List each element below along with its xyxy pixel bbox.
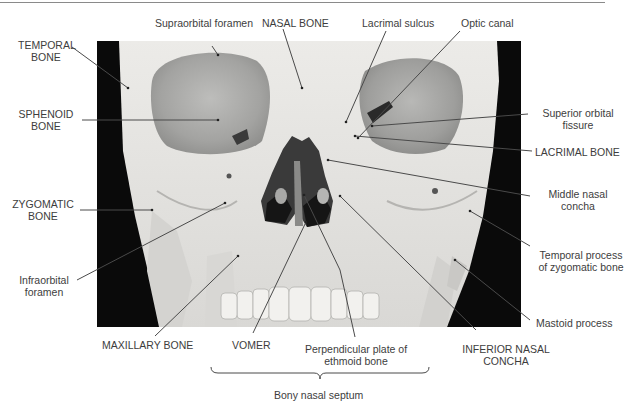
label-zygomatic-bone: ZYGOMATIC BONE [10,198,76,222]
label-sphenoid-bone-line2: BONE [18,120,74,132]
label-infraorbital-foramen: Infraorbital foramen [14,274,74,298]
label-zygomatic-bone-line2: BONE [10,210,76,222]
label-superior-orbital-fissure-line2: fissure [530,119,626,131]
label-temporal-process-line1: Temporal process [530,249,632,261]
label-temporal-bone-line2: BONE [18,51,74,63]
label-sphenoid-bone: SPHENOID BONE [18,108,74,132]
label-optic-canal: Optic canal [461,17,514,29]
label-bony-nasal-septum: Bony nasal septum [274,389,363,401]
label-supraorbital-foramen: Supraorbital foramen [155,17,253,29]
label-temporal-process-line2: of zygomatic bone [530,261,632,273]
label-zygomatic-bone-line1: ZYGOMATIC [10,198,76,210]
label-infraorbital-foramen-line1: Infraorbital [14,274,74,286]
label-superior-orbital-fissure: Superior orbital fissure [530,107,626,131]
label-sphenoid-bone-line1: SPHENOID [18,108,74,120]
label-vomer: VOMER [232,339,271,351]
label-perpendicular-plate-line2: ethmoid bone [296,355,416,367]
label-infraorbital-foramen-line2: foramen [14,286,74,298]
label-lacrimal-bone: LACRIMAL BONE [535,146,620,158]
label-middle-nasal-concha-line1: Middle nasal [533,188,623,200]
label-perpendicular-plate: Perpendicular plate of ethmoid bone [296,343,416,367]
label-temporal-bone-line1: TEMPORAL [18,39,74,51]
label-maxillary-bone: MAXILLARY BONE [102,339,193,351]
bony-nasal-septum-brace [211,367,429,379]
label-middle-nasal-concha-line2: concha [533,200,623,212]
label-nasal-bone: NASAL BONE [262,17,329,29]
label-inferior-nasal-concha: INFERIOR NASAL CONCHA [458,343,554,367]
label-middle-nasal-concha: Middle nasal concha [533,188,623,212]
label-superior-orbital-fissure-line1: Superior orbital [530,107,626,119]
label-perpendicular-plate-line1: Perpendicular plate of [296,343,416,355]
label-temporal-bone: TEMPORAL BONE [18,39,74,63]
label-temporal-process: Temporal process of zygomatic bone [530,249,632,273]
label-lacrimal-sulcus: Lacrimal sulcus [362,17,434,29]
label-inferior-nasal-concha-line2: CONCHA [458,355,554,367]
label-inferior-nasal-concha-line1: INFERIOR NASAL [458,343,554,355]
label-mastoid-process: Mastoid process [536,317,612,329]
